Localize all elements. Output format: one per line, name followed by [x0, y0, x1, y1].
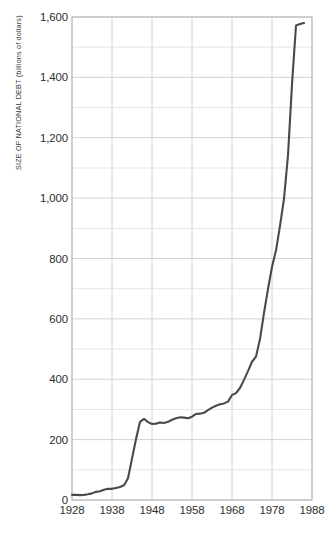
x-tick-label: 1988 [300, 504, 325, 516]
x-tick-label: 1978 [260, 504, 285, 516]
national-debt-line-chart: SIZE OF NATIONAL DEBT (billions of dolla… [0, 0, 336, 535]
debt-series-line [72, 23, 304, 495]
x-tick-label: 1968 [220, 504, 245, 516]
plot-area [0, 0, 336, 535]
x-tick-label: 1958 [180, 504, 205, 516]
x-tick-label: 1938 [100, 504, 125, 516]
x-tick-label: 1948 [140, 504, 165, 516]
x-tick-label: 1928 [60, 504, 85, 516]
